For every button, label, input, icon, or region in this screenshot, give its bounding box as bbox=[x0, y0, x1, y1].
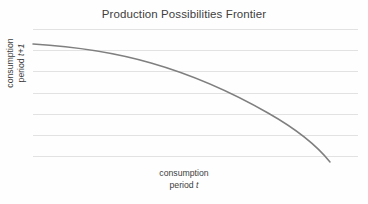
y-axis-title-line2: period t+1 bbox=[16, 20, 27, 106]
x-axis-title-variable: t bbox=[196, 180, 198, 190]
y-axis-title: consumption period t+1 bbox=[5, 20, 35, 106]
x-axis-title-line2: period t bbox=[0, 180, 368, 192]
x-axis-title-line1: consumption bbox=[159, 168, 208, 178]
plot-area bbox=[33, 29, 358, 157]
x-axis-title-line2-prefix: period bbox=[170, 180, 197, 190]
ppf-curve bbox=[33, 29, 358, 157]
y-axis-title-line2-prefix: period bbox=[16, 56, 26, 83]
chart-container: Production Possibilities Frontier consum… bbox=[0, 0, 368, 204]
y-axis-title-variable: t+1 bbox=[16, 44, 26, 56]
x-axis-title: consumption period t bbox=[0, 168, 368, 191]
y-axis-title-line1: consumption bbox=[5, 38, 15, 87]
chart-title: Production Possibilities Frontier bbox=[0, 7, 368, 21]
